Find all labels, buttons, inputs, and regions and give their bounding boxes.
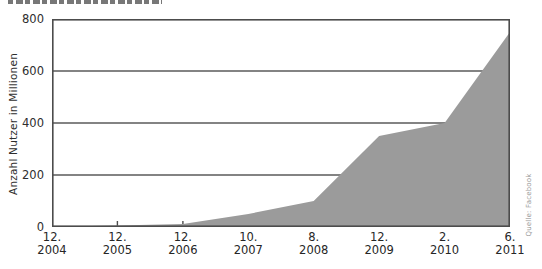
x-tick-label: 8.2008 — [282, 231, 346, 256]
x-tick-month: 8. — [282, 231, 346, 244]
x-tick-label: 12.2009 — [347, 231, 411, 256]
x-axis-tick-labels: 12.200412.200512.200610.20078.200812.200… — [0, 231, 542, 259]
area-series-facebook-users — [52, 32, 510, 227]
source-credit: Quelle: Facebook — [525, 173, 533, 236]
facebook-users-area-chart: Anzahl Nutzer in Millionen 0200400600800… — [0, 0, 542, 269]
y-axis-tick-labels: 0200400600800 — [0, 0, 44, 269]
x-tick-year: 2007 — [216, 244, 280, 257]
y-tick-label: 200 — [0, 168, 44, 182]
x-tick-year: 2006 — [151, 244, 215, 257]
x-tick-month: 12. — [85, 231, 149, 244]
x-tick-label: 12.2006 — [151, 231, 215, 256]
x-tick-year: 2005 — [85, 244, 149, 257]
x-tick-month: 2. — [413, 231, 477, 244]
x-tick-month: 12. — [151, 231, 215, 244]
x-tick-label: 12.2005 — [85, 231, 149, 256]
x-tick-month: 12. — [347, 231, 411, 244]
x-tick-month: 12. — [20, 231, 84, 244]
x-tick-year: 2004 — [20, 244, 84, 257]
y-tick-label: 600 — [0, 64, 44, 78]
x-tick-label: 2.2010 — [413, 231, 477, 256]
x-tick-year: 2009 — [347, 244, 411, 257]
y-tick-label: 400 — [0, 116, 44, 130]
y-tick-label: 800 — [0, 12, 44, 26]
x-tick-year: 2010 — [413, 244, 477, 257]
x-tick-year: 2008 — [282, 244, 346, 257]
x-tick-month: 10. — [216, 231, 280, 244]
x-tick-label: 12.2004 — [20, 231, 84, 256]
x-tick-year: 2011 — [478, 244, 542, 257]
x-tick-label: 10.2007 — [216, 231, 280, 256]
plot-area-svg — [52, 19, 510, 227]
